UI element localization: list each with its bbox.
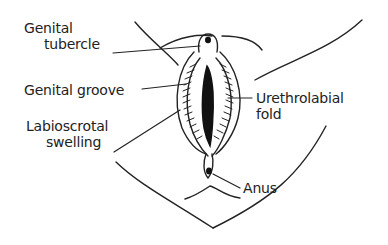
hatching-left [183,64,202,139]
right-thigh-line [255,20,362,80]
label-labioscrotal-swelling: Labioscrotal swelling [26,118,108,150]
label-line: Urethrolabial [256,90,344,106]
urogenital-groove [202,66,213,146]
lower-left-outline [116,162,213,228]
leader-anus [213,174,240,188]
hatching-right [214,64,233,139]
label-line: swelling [26,134,108,150]
leader-genital-tubercle [113,46,200,53]
labioscrotal-swelling-outline-right [216,52,240,154]
label-line: Genital [24,20,114,36]
tubercle-tip [205,37,211,43]
gluteal-crease [185,186,240,199]
leader-labioscrotal-swelling [114,110,180,152]
left-thigh-line [135,22,178,65]
anus-opening [206,168,212,175]
leader-genital-groove [142,84,186,89]
label-line: Labioscrotal [26,118,108,134]
label-line: fold [256,106,344,122]
diagram-canvas: Genital tubercle Genital groove Labioscr… [0,0,388,245]
label-genital-groove: Genital groove [24,82,124,98]
upper-arc-right [222,36,262,50]
label-genital-tubercle: Genital tubercle [24,20,114,52]
label-urethrolabial-fold: Urethrolabial fold [256,90,344,122]
label-anus: Anus [243,180,277,196]
lower-right-outline [213,126,326,228]
label-line: tubercle [24,36,114,52]
upper-arc [160,35,212,48]
